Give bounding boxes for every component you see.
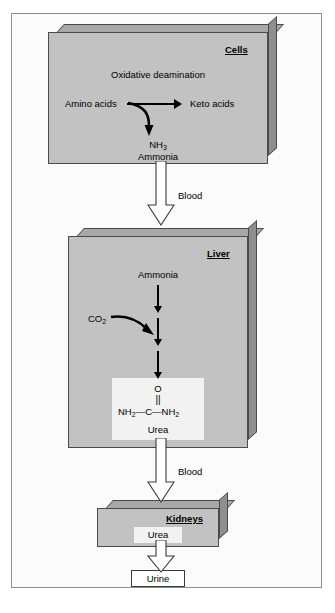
blood-arrow-liver-to-kidneys (147, 438, 175, 504)
kidneys-box-title: Kidneys (166, 513, 203, 524)
liver-arrow-2-head (154, 339, 162, 346)
ammonia-formula-subscript: 3 (163, 144, 167, 151)
urea-nh2-left: NH (118, 406, 132, 417)
co2-label: CO2 (88, 313, 106, 325)
urea-double-bond: || (155, 394, 160, 405)
urea-structural-formula: NH2—C—NH2 (118, 406, 179, 418)
deamination-arrow-head (174, 99, 182, 109)
blood-label-lower: Blood (178, 466, 202, 477)
urea-carbon-atom: C (145, 406, 152, 417)
cells-box-side-face (268, 16, 277, 156)
blood-arrow-cells-to-liver (147, 161, 175, 227)
ammonia-branch-arrow (125, 100, 165, 138)
keto-acids-label: Keto acids (190, 98, 234, 109)
liver-box-side-face (248, 220, 257, 440)
co2-text: CO (88, 313, 102, 324)
kidneys-box-side-face (219, 492, 228, 539)
liver-box-title: Liver (207, 248, 230, 259)
urea-nh2-right: NH (162, 406, 176, 417)
amino-acids-label: Amino acids (65, 98, 117, 109)
liver-arrow-3-head (154, 372, 162, 379)
oxidative-deamination-label: Oxidative deamination (111, 69, 205, 80)
co2-subscript: 2 (102, 318, 106, 325)
urea-pathway-figure: Cells Oxidative deamination Amino acids … (0, 0, 335, 613)
co2-entry-arrow (110, 312, 158, 338)
urea-name-label: Urea (148, 424, 169, 435)
urea-bond-left: — (136, 406, 146, 417)
urea-nh2-right-subscript: 2 (175, 411, 179, 418)
liver-ammonia-label: Ammonia (138, 269, 178, 280)
urea-bond-right: — (152, 406, 162, 417)
urea-oxygen-atom: O (154, 383, 161, 394)
ammonia-formula: NH3 (149, 139, 167, 151)
blood-label-upper: Blood (178, 190, 202, 201)
cells-box-title: Cells (225, 44, 248, 55)
kidneys-urea-label: Urea (148, 529, 169, 540)
liver-arrow-1-shaft (157, 285, 159, 307)
urine-flow-arrow (147, 540, 175, 574)
ammonia-formula-text: NH (149, 139, 163, 150)
liver-arrow-3-shaft (157, 351, 159, 373)
